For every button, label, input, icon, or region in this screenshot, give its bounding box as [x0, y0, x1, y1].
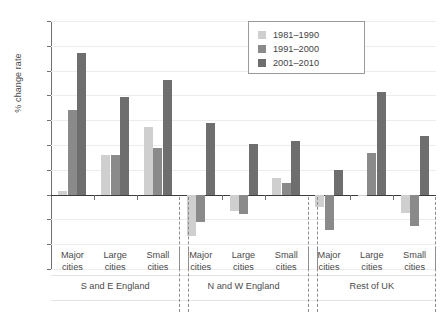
x-axis-category-label: Majorcities — [51, 250, 94, 273]
category-label-band: MajorcitiesLargecitiesSmallcitiesMajorci… — [51, 248, 436, 314]
bar — [401, 195, 410, 214]
category-label-line: cities — [137, 262, 180, 274]
group-separator — [308, 248, 309, 312]
x-axis-category-label: Largecities — [350, 250, 393, 273]
legend-item[interactable]: 1991–2000 — [258, 42, 364, 56]
x-axis-group-label: N and W England — [174, 281, 314, 291]
bar — [282, 183, 291, 194]
category-label-line: Large — [94, 250, 137, 262]
y-axis-tick — [47, 71, 51, 72]
bar — [377, 92, 386, 194]
bar — [144, 127, 153, 195]
x-axis-category-label: Majorcities — [179, 250, 222, 273]
y-axis-tick — [47, 170, 51, 171]
x-axis-category-label: Smallcities — [265, 250, 308, 273]
y-axis-tick — [47, 145, 51, 146]
bar — [120, 97, 129, 195]
bar — [206, 123, 215, 194]
bar — [230, 195, 239, 212]
gridline — [51, 21, 436, 22]
group-separator — [188, 248, 189, 312]
y-axis-title: % change rate — [13, 23, 23, 143]
category-label-line: Major — [51, 250, 94, 262]
category-label-line: Small — [265, 250, 308, 262]
bar — [410, 195, 419, 226]
category-label-line: cities — [265, 262, 308, 274]
bar — [58, 191, 67, 195]
legend-item[interactable]: 1981–1990 — [258, 28, 364, 42]
x-axis-minor-tick — [350, 195, 351, 200]
x-axis-group-label: S and E England — [45, 281, 185, 291]
legend-label: 2001–2010 — [273, 58, 319, 68]
category-label-line: cities — [393, 262, 436, 274]
x-axis-category-label: Majorcities — [308, 250, 351, 273]
category-label-line: cities — [222, 262, 265, 274]
x-axis-category-label: Largecities — [222, 250, 265, 273]
x-axis-category-label: Smallcities — [137, 250, 180, 273]
bar — [239, 195, 248, 214]
y-axis-tick — [47, 46, 51, 47]
plot-area: 14.012.010.08.06.04.02.00.0-2.0-4.0-6.0 — [51, 21, 436, 269]
legend-label: 1981–1990 — [273, 30, 319, 40]
category-label-line: cities — [350, 262, 393, 274]
x-axis-group-label: Rest of UK — [302, 281, 442, 291]
category-label-line: Small — [393, 250, 436, 262]
legend: 1981–19901991–20002001–2010 — [248, 21, 365, 74]
x-axis-minor-tick — [265, 195, 266, 200]
group-separator — [317, 248, 318, 312]
bar — [334, 170, 343, 195]
gridline — [51, 46, 436, 47]
band-divider — [51, 300, 436, 301]
bar — [272, 178, 281, 195]
gridline — [51, 219, 436, 220]
bar — [196, 195, 205, 222]
group-separator — [179, 248, 180, 312]
category-label-line: cities — [179, 262, 222, 274]
gridline — [51, 244, 436, 245]
y-axis-tick — [47, 244, 51, 245]
x-axis-category-label: Largecities — [94, 250, 137, 273]
x-axis-minor-tick — [137, 195, 138, 200]
y-axis-tick — [47, 21, 51, 22]
legend-item[interactable]: 2001–2010 — [258, 56, 364, 70]
category-label-line: Large — [222, 250, 265, 262]
legend-swatch-icon — [258, 45, 266, 53]
category-label-line: cities — [94, 262, 137, 274]
bar — [420, 136, 429, 194]
bar — [153, 148, 162, 195]
bar — [325, 195, 334, 230]
bar — [77, 53, 86, 194]
bar — [101, 155, 110, 195]
bar — [358, 195, 367, 196]
y-axis-tick — [47, 219, 51, 220]
bar — [249, 144, 258, 194]
legend-swatch-icon — [258, 31, 266, 39]
bar — [111, 155, 120, 195]
bar — [367, 153, 376, 195]
bar — [163, 80, 172, 195]
band-divider — [51, 275, 436, 276]
category-label-line: cities — [51, 262, 94, 274]
x-axis-minor-tick — [393, 195, 394, 200]
legend-swatch-icon — [258, 59, 266, 67]
y-axis-tick — [47, 120, 51, 121]
bar — [291, 141, 300, 195]
x-axis-category-label: Smallcities — [393, 250, 436, 273]
category-label-line: Small — [137, 250, 180, 262]
category-label-line: cities — [308, 262, 351, 274]
category-label-line: Major — [308, 250, 351, 262]
category-label-line: Large — [350, 250, 393, 262]
bar — [68, 110, 77, 194]
x-axis-minor-tick — [222, 195, 223, 200]
category-label-line: Major — [179, 250, 222, 262]
legend-label: 1991–2000 — [273, 44, 319, 54]
gridline — [51, 71, 436, 72]
bar-chart: % change rate 14.012.010.08.06.04.02.00.… — [0, 0, 446, 314]
x-axis-minor-tick — [94, 195, 95, 200]
group-separator — [435, 248, 436, 312]
y-axis-tick — [47, 95, 51, 96]
